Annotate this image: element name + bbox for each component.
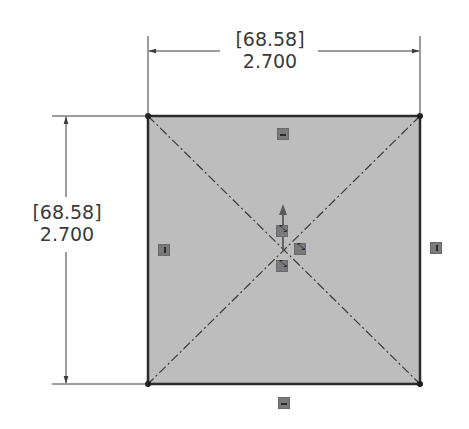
vertical-relation-icon[interactable] bbox=[158, 244, 170, 256]
horizontal-relation-icon[interactable] bbox=[278, 397, 290, 409]
horizontal-relation-icon[interactable] bbox=[277, 128, 289, 140]
horizontal-dimension-metric: [68.58] bbox=[222, 28, 318, 50]
coincident-relation-icon[interactable]: ⤡ bbox=[276, 260, 288, 272]
coincident-relation-icon[interactable]: ⤡ bbox=[276, 225, 288, 237]
vertical-dimension-imperial: 2.700 bbox=[22, 223, 112, 245]
horizontal-dimension-imperial: 2.700 bbox=[222, 50, 318, 72]
horizontal-dimension-label[interactable]: [68.58] 2.700 bbox=[222, 28, 318, 72]
vertical-relation-icon[interactable] bbox=[430, 242, 442, 254]
vertical-dimension-metric: [68.58] bbox=[22, 201, 112, 223]
corner-point-bottom-right[interactable] bbox=[417, 381, 423, 387]
vertical-dimension-label[interactable]: [68.58] 2.700 bbox=[22, 201, 112, 245]
midpoint-relation-icon[interactable]: ⤡ bbox=[294, 243, 306, 255]
